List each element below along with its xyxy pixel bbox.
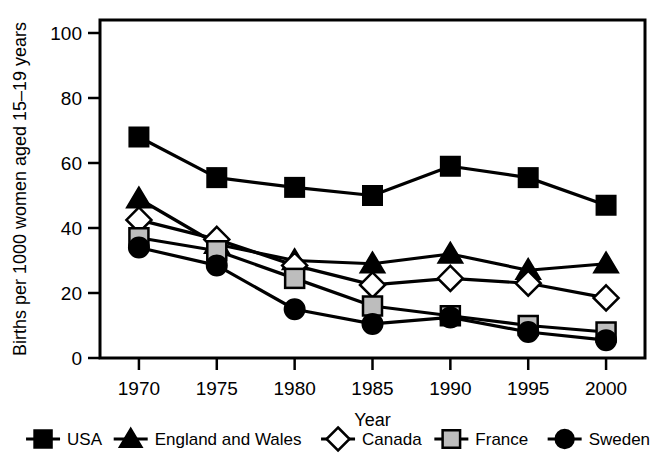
marker-filled-circle bbox=[129, 238, 149, 258]
marker-filled-square bbox=[285, 178, 304, 197]
marker-filled-square bbox=[519, 168, 538, 187]
marker-open-diamond bbox=[438, 266, 463, 291]
y-axis-tick-label: 80 bbox=[61, 88, 82, 109]
marker-filled-circle bbox=[555, 430, 573, 448]
marker-filled-triangle bbox=[127, 187, 151, 207]
y-axis-tick-label: 0 bbox=[71, 348, 82, 369]
legend-item-usa[interactable]: USA bbox=[26, 430, 103, 449]
legend-label: Sweden bbox=[589, 430, 650, 449]
marker-gray-square bbox=[285, 269, 304, 288]
y-axis-tick-label: 60 bbox=[61, 153, 82, 174]
legend-label: France bbox=[475, 430, 528, 449]
y-axis-tick-label: 100 bbox=[50, 23, 82, 44]
marker-filled-circle bbox=[363, 314, 383, 334]
marker-filled-square bbox=[207, 168, 226, 187]
x-axis-tick-label: 1980 bbox=[274, 378, 316, 399]
marker-filled-square bbox=[597, 196, 616, 215]
legend-item-sweden[interactable]: Sweden bbox=[548, 430, 650, 449]
line-chart: 0204060801001970197519801985199019952000… bbox=[0, 0, 665, 460]
legend-item-england-and-wales[interactable]: England and Wales bbox=[114, 429, 302, 449]
marker-filled-circle bbox=[440, 307, 460, 327]
x-axis-tick-label: 1985 bbox=[351, 378, 393, 399]
marker-filled-circle bbox=[596, 330, 616, 350]
x-axis-tick-label: 1975 bbox=[196, 378, 238, 399]
marker-filled-triangle bbox=[594, 252, 618, 272]
y-axis-title: Births per 1000 women aged 15–19 years bbox=[10, 22, 30, 356]
marker-filled-square bbox=[129, 128, 148, 147]
marker-open-diamond bbox=[594, 285, 619, 310]
marker-filled-square bbox=[441, 157, 460, 176]
legend-label: Canada bbox=[362, 430, 422, 449]
x-axis-tick-label: 1995 bbox=[507, 378, 549, 399]
marker-filled-circle bbox=[518, 322, 538, 342]
marker-filled-circle bbox=[207, 255, 227, 275]
marker-open-diamond bbox=[360, 272, 385, 297]
legend-item-france[interactable]: France bbox=[434, 430, 528, 449]
legend-label: USA bbox=[67, 430, 103, 449]
x-axis-tick-label: 1990 bbox=[429, 378, 471, 399]
marker-filled-circle bbox=[285, 299, 305, 319]
series-usa bbox=[129, 128, 615, 215]
x-axis-tick-label: 1970 bbox=[118, 378, 160, 399]
y-axis-tick-label: 20 bbox=[61, 283, 82, 304]
marker-open-diamond bbox=[327, 428, 350, 451]
chart-figure: 0204060801001970197519801985199019952000… bbox=[0, 0, 665, 460]
marker-filled-square bbox=[363, 186, 382, 205]
x-axis-tick-label: 2000 bbox=[585, 378, 627, 399]
legend-label: England and Wales bbox=[155, 430, 302, 449]
marker-gray-square bbox=[363, 297, 382, 316]
y-axis-tick-label: 40 bbox=[61, 218, 82, 239]
marker-gray-square bbox=[443, 430, 460, 447]
marker-filled-square bbox=[34, 430, 51, 447]
marker-filled-triangle bbox=[438, 243, 462, 263]
legend-item-canada[interactable]: Canada bbox=[321, 428, 422, 451]
x-axis-title: Year bbox=[354, 410, 390, 430]
